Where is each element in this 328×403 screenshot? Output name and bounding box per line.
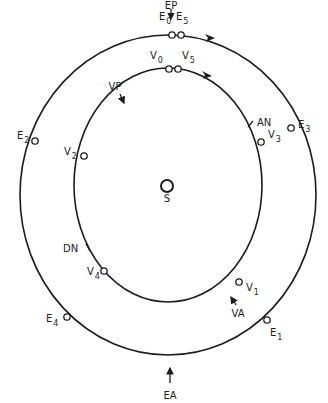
earth-position-markers: E0E5E3E2E4E1: [17, 11, 310, 342]
earth-position-marker-5: [178, 32, 184, 38]
earth-position-label-4: E4: [46, 313, 58, 328]
venus-position-marker-4: [101, 268, 107, 274]
venus-position-label-2: V2: [64, 146, 77, 161]
earth-position-label-1: E1: [270, 327, 282, 342]
earth-position-marker-0: [169, 32, 175, 38]
venus-position-label-5: V5: [182, 50, 195, 65]
earth-position-marker-2: [32, 138, 38, 144]
descending-node-label: DN: [63, 243, 78, 254]
sun-icon: [161, 180, 173, 192]
earth-position-label-0: E0: [159, 11, 171, 26]
venus-position-label-0: V0: [150, 50, 163, 65]
earth-position-label-5: E5: [176, 11, 188, 26]
earth-position-marker-1: [264, 317, 270, 323]
venus-position-marker-1: [236, 279, 242, 285]
earth-aphelion-label: EA: [163, 390, 176, 401]
venus-position-marker-2: [81, 153, 87, 159]
sun-label: S: [164, 193, 170, 204]
venus-perihelion-label: VP: [109, 81, 122, 92]
venus-position-marker-0: [166, 66, 172, 72]
ascending-node-label: AN: [257, 117, 271, 128]
venus-position-marker-5: [175, 66, 181, 72]
venus-position-label-1: V1: [246, 282, 259, 297]
venus-aphelion-label: VA: [231, 308, 244, 319]
earth-position-marker-4: [64, 314, 70, 320]
earth-position-label-2: E2: [17, 130, 29, 145]
orbit-diagram: S EP EA VP VA AN DN E0E5E3E2E4E1 V0V5V3V…: [0, 0, 328, 403]
earth-position-marker-3: [288, 125, 294, 131]
venus-position-marker-3: [258, 139, 264, 145]
venus-perihelion-arrow-icon: [120, 94, 124, 103]
venus-orbit: [74, 68, 262, 302]
venus-position-label-3: V3: [268, 129, 281, 144]
venus-aphelion-arrow-icon: [231, 297, 236, 305]
venus-position-label-4: V4: [87, 266, 100, 281]
